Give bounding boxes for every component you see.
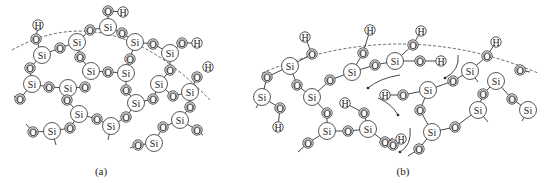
svg-text:Si: Si bbox=[48, 126, 57, 137]
atom-o: O bbox=[55, 43, 65, 54]
svg-text:O: O bbox=[371, 60, 378, 71]
svg-text:O: O bbox=[45, 82, 52, 93]
atom-o: O bbox=[192, 72, 202, 83]
atom-h: H bbox=[118, 7, 128, 18]
panel-a-silica-network: HOSiOSiOSiOHOSiOSiOHOSiOSiOOSiOSiOOOSiOS… bbox=[12, 6, 213, 152]
bonds-b bbox=[256, 30, 530, 156]
svg-text:O: O bbox=[149, 94, 156, 105]
svg-text:Si: Si bbox=[104, 22, 113, 33]
svg-text:Si: Si bbox=[308, 92, 317, 103]
atom-o: O bbox=[359, 108, 369, 119]
svg-text:O: O bbox=[323, 108, 330, 119]
svg-text:Si: Si bbox=[474, 105, 483, 116]
atom-o: O bbox=[307, 49, 317, 60]
svg-text:Si: Si bbox=[87, 66, 96, 77]
atom-si: Si bbox=[151, 76, 168, 93]
svg-text:O: O bbox=[81, 82, 88, 93]
atom-si: Si bbox=[100, 19, 117, 36]
svg-text:H: H bbox=[492, 37, 499, 48]
svg-text:H: H bbox=[341, 98, 348, 109]
atom-si: Si bbox=[420, 82, 437, 99]
svg-text:O: O bbox=[276, 103, 283, 114]
svg-text:O: O bbox=[118, 28, 125, 39]
svg-text:O: O bbox=[293, 80, 300, 91]
atom-o: O bbox=[165, 65, 175, 76]
atom-o: O bbox=[31, 34, 41, 45]
svg-text:O: O bbox=[149, 39, 156, 50]
atom-o: O bbox=[262, 72, 272, 83]
atom-o: O bbox=[515, 65, 525, 76]
atom-si: Si bbox=[44, 123, 61, 140]
atom-si: Si bbox=[282, 58, 299, 75]
atom-o: O bbox=[121, 85, 131, 96]
svg-text:O: O bbox=[122, 85, 129, 96]
atom-o: O bbox=[450, 122, 460, 133]
svg-text:O: O bbox=[483, 51, 490, 62]
atom-o: O bbox=[185, 102, 195, 113]
atom-si: Si bbox=[103, 118, 120, 135]
atom-o: O bbox=[292, 80, 302, 91]
svg-text:O: O bbox=[508, 94, 515, 105]
svg-text:Si: Si bbox=[38, 50, 47, 61]
atom-o: O bbox=[133, 140, 143, 151]
atom-si: Si bbox=[172, 112, 189, 129]
atom-o: O bbox=[80, 82, 90, 93]
svg-text:O: O bbox=[516, 65, 523, 76]
atom-h: H bbox=[273, 122, 283, 133]
svg-text:Si: Si bbox=[466, 66, 475, 77]
svg-text:O: O bbox=[326, 75, 333, 86]
svg-text:Si: Si bbox=[186, 87, 195, 98]
svg-text:Si: Si bbox=[391, 56, 400, 67]
atom-o: O bbox=[478, 89, 488, 100]
caption-a: (a) bbox=[95, 165, 108, 178]
arrow-head bbox=[367, 87, 370, 90]
atom-o: O bbox=[92, 114, 102, 125]
atom-o: O bbox=[415, 56, 425, 67]
panel-b-silica-chains: HOSiOSiOHOSiOSiOHOSiOHOHOSiOSiHOOOHOSiOS… bbox=[254, 25, 539, 156]
atom-o: O bbox=[158, 122, 168, 133]
atom-si: Si bbox=[254, 89, 271, 106]
svg-text:Si: Si bbox=[150, 138, 159, 149]
migration-arrow bbox=[445, 55, 458, 78]
svg-text:Si: Si bbox=[286, 61, 295, 72]
atom-si: Si bbox=[470, 102, 487, 119]
atom-h: H bbox=[416, 26, 426, 37]
atom-o: O bbox=[15, 94, 25, 105]
atom-o: O bbox=[325, 75, 335, 86]
atom-si: Si bbox=[146, 135, 163, 152]
svg-text:O: O bbox=[409, 40, 416, 51]
atom-si: Si bbox=[520, 102, 537, 119]
atom-si: Si bbox=[69, 34, 86, 51]
svg-text:O: O bbox=[66, 123, 73, 134]
atom-o: O bbox=[448, 76, 458, 87]
svg-text:O: O bbox=[86, 25, 93, 36]
svg-text:O: O bbox=[76, 52, 83, 63]
atom-o: O bbox=[507, 94, 517, 105]
atom-h: H bbox=[300, 32, 310, 43]
svg-text:O: O bbox=[16, 94, 23, 105]
atom-o: O bbox=[275, 103, 285, 114]
atom-h: H bbox=[491, 37, 501, 48]
svg-text:H: H bbox=[417, 26, 424, 37]
arrow-head bbox=[397, 114, 400, 117]
silica-structure-figure: HOSiOSiOSiOHOSiOSiOHOSiOSiOOSiOSiOOOSiOS… bbox=[0, 0, 544, 183]
svg-text:O: O bbox=[166, 65, 173, 76]
atom-o: O bbox=[168, 91, 178, 102]
svg-text:O: O bbox=[169, 91, 176, 102]
svg-text:Si: Si bbox=[28, 79, 37, 90]
atom-o: O bbox=[414, 144, 424, 155]
svg-text:O: O bbox=[344, 126, 351, 137]
atom-o: O bbox=[177, 38, 187, 49]
svg-text:O: O bbox=[193, 125, 200, 136]
atom-si: Si bbox=[128, 95, 145, 112]
svg-text:O: O bbox=[416, 105, 423, 116]
svg-text:O: O bbox=[56, 43, 63, 54]
svg-text:H: H bbox=[397, 134, 404, 145]
svg-text:H: H bbox=[119, 7, 126, 18]
svg-text:H: H bbox=[274, 122, 281, 133]
svg-text:Si: Si bbox=[176, 115, 185, 126]
atom-o: O bbox=[303, 138, 313, 149]
svg-text:Si: Si bbox=[75, 109, 84, 120]
atom-si: Si bbox=[71, 106, 88, 123]
atom-o: O bbox=[192, 125, 202, 136]
